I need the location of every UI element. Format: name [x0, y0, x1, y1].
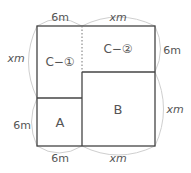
dim-right-top: 6m — [163, 44, 181, 57]
dim-top-right: xm — [108, 11, 126, 24]
arc-right-top — [155, 26, 161, 72]
dim-left-top: xm — [6, 52, 24, 65]
dim-left-bottom: 6m — [13, 119, 31, 132]
arc-left-top — [29, 26, 38, 98]
arc-right-bottom — [155, 72, 164, 146]
region-b-label: B — [114, 102, 123, 117]
region-a-label: A — [56, 115, 65, 130]
dim-top-left: 6m — [51, 11, 69, 24]
region-c1-label: C−① — [45, 55, 74, 69]
dimension-arcs — [29, 17, 164, 155]
arc-left-bottom — [32, 98, 38, 146]
dim-bottom-left: 6m — [51, 152, 69, 165]
region-c2-label: C−② — [103, 42, 132, 56]
dim-right-bottom: xm — [165, 103, 183, 116]
area-diagram: C−① C−② A B 6m xm xm 6m 6m xm 6m xm — [0, 0, 191, 173]
dim-bottom-right: xm — [108, 152, 126, 165]
